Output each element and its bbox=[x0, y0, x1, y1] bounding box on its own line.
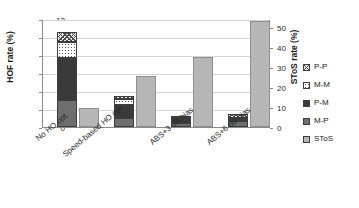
legend-item-m-m[interactable]: M-M bbox=[303, 76, 333, 94]
bar-segment-p-p[interactable] bbox=[114, 96, 134, 99]
legend-item-m-p[interactable]: M-P bbox=[303, 112, 333, 130]
legend-swatch-icon bbox=[303, 82, 310, 89]
legend-swatch-icon bbox=[303, 136, 310, 143]
y-axis-left-title: HOF rate (%) bbox=[5, 21, 15, 93]
legend-swatch-icon bbox=[303, 100, 310, 107]
legend-label: P-M bbox=[314, 99, 329, 107]
legend-label: M-M bbox=[314, 81, 330, 89]
y-axis-right-tick: 40 bbox=[277, 44, 317, 53]
bar-segment-m-m[interactable] bbox=[57, 42, 77, 57]
bar-stos[interactable] bbox=[193, 57, 213, 127]
plot-area bbox=[42, 20, 270, 128]
legend-swatch-icon bbox=[303, 64, 310, 71]
legend-item-p-m[interactable]: P-M bbox=[303, 94, 333, 112]
chart-container: HOF rate (%) SToS rate (%) 0 2 4 6 8 10 … bbox=[0, 0, 359, 208]
legend-item-stos[interactable]: SToS bbox=[303, 130, 333, 148]
tick-mark bbox=[270, 128, 273, 129]
legend-item-p-p[interactable]: P-P bbox=[303, 58, 333, 76]
legend-label: SToS bbox=[314, 135, 333, 143]
bar-segment-m-p[interactable] bbox=[114, 118, 134, 127]
chart-legend: P-P M-M P-M M-P SToS bbox=[303, 58, 333, 148]
y-axis-right-tick: 50 bbox=[277, 24, 317, 33]
legend-label: P-P bbox=[314, 63, 327, 71]
bar-stos[interactable] bbox=[136, 76, 156, 127]
legend-swatch-icon bbox=[303, 118, 310, 125]
legend-label: M-P bbox=[314, 117, 329, 125]
bar-stos[interactable] bbox=[250, 21, 270, 127]
bar-segment-p-p[interactable] bbox=[57, 32, 77, 43]
bar-segment-p-m[interactable] bbox=[57, 58, 77, 100]
